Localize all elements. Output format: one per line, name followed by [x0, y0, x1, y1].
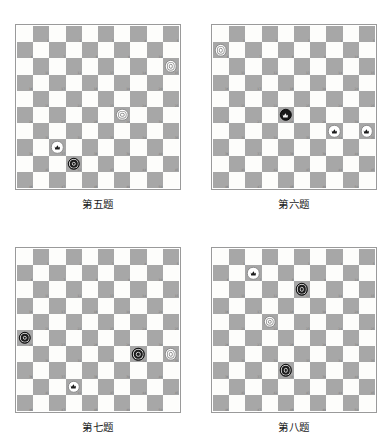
light-square-r8-c4[interactable]	[262, 362, 278, 378]
light-square-r4-c4[interactable]	[66, 298, 82, 314]
light-square-r7-c1[interactable]	[17, 123, 33, 139]
light-square-r2-c6[interactable]	[294, 42, 310, 58]
light-square-r1-c5[interactable]	[278, 26, 294, 42]
square-11[interactable]: 11	[33, 58, 49, 74]
square-50[interactable]: 50	[147, 172, 163, 188]
square-7[interactable]: 7	[49, 42, 65, 58]
light-square-r8-c10[interactable]	[163, 139, 179, 155]
light-square-r7-c9[interactable]	[343, 123, 359, 139]
square-4[interactable]: 4	[326, 26, 342, 42]
square-34[interactable]: 34	[326, 346, 342, 362]
light-square-r1-c5[interactable]	[82, 249, 98, 265]
square-35[interactable]: 35	[163, 346, 179, 362]
light-square-r6-c8[interactable]	[326, 330, 342, 346]
light-square-r5-c7[interactable]	[310, 314, 326, 330]
light-square-r8-c8[interactable]	[326, 362, 342, 378]
light-square-r6-c4[interactable]	[262, 107, 278, 123]
square-33[interactable]: 33	[294, 346, 310, 362]
light-square-r3-c3[interactable]	[49, 58, 65, 74]
square-31[interactable]: 31	[229, 346, 245, 362]
light-square-r3-c7[interactable]	[114, 58, 130, 74]
light-square-r4-c8[interactable]	[326, 75, 342, 91]
light-square-r8-c4[interactable]	[66, 139, 82, 155]
square-13[interactable]: 13	[294, 281, 310, 297]
light-square-r9-c7[interactable]	[310, 156, 326, 172]
square-46[interactable]: 46	[17, 172, 33, 188]
light-square-r7-c7[interactable]	[310, 346, 326, 362]
light-square-r3-c7[interactable]	[310, 58, 326, 74]
square-45[interactable]: 45	[163, 379, 179, 395]
square-48[interactable]: 48	[278, 172, 294, 188]
square-26[interactable]: 26	[213, 107, 229, 123]
light-square-r2-c6[interactable]	[98, 42, 114, 58]
light-square-r1-c7[interactable]	[114, 249, 130, 265]
square-37[interactable]: 37	[245, 362, 261, 378]
square-50[interactable]: 50	[343, 172, 359, 188]
square-50[interactable]: 50	[343, 395, 359, 411]
square-48[interactable]: 48	[82, 395, 98, 411]
square-41[interactable]: 41	[33, 156, 49, 172]
square-32[interactable]: 32	[66, 346, 82, 362]
light-square-r2-c8[interactable]	[326, 42, 342, 58]
square-5[interactable]: 5	[359, 26, 375, 42]
square-1[interactable]: 1	[33, 26, 49, 42]
square-46[interactable]: 46	[213, 172, 229, 188]
light-square-r1-c9[interactable]	[343, 249, 359, 265]
light-square-r1-c1[interactable]	[17, 26, 33, 42]
light-square-r2-c2[interactable]	[229, 265, 245, 281]
light-square-r2-c4[interactable]	[66, 265, 82, 281]
square-13[interactable]: 13	[98, 58, 114, 74]
light-square-r5-c9[interactable]	[147, 91, 163, 107]
light-square-r4-c6[interactable]	[98, 75, 114, 91]
light-square-r10-c8[interactable]	[130, 395, 146, 411]
light-square-r1-c3[interactable]	[245, 26, 261, 42]
light-square-r10-c8[interactable]	[326, 172, 342, 188]
light-square-r3-c5[interactable]	[278, 281, 294, 297]
light-square-r1-c7[interactable]	[114, 26, 130, 42]
light-square-r10-c4[interactable]	[262, 172, 278, 188]
square-37[interactable]: 37	[49, 139, 65, 155]
light-square-r9-c5[interactable]	[278, 379, 294, 395]
light-square-r2-c2[interactable]	[33, 42, 49, 58]
light-square-r9-c7[interactable]	[310, 379, 326, 395]
light-square-r5-c5[interactable]	[82, 314, 98, 330]
light-square-r7-c9[interactable]	[147, 346, 163, 362]
square-49[interactable]: 49	[114, 172, 130, 188]
piece-white-king-square-7[interactable]	[247, 267, 259, 279]
piece-black-man-square-26[interactable]	[19, 332, 31, 344]
square-28[interactable]: 28	[278, 107, 294, 123]
piece-white-man-square-22[interactable]	[263, 316, 275, 328]
light-square-r3-c5[interactable]	[82, 58, 98, 74]
light-square-r6-c10[interactable]	[359, 107, 375, 123]
light-square-r9-c5[interactable]	[82, 156, 98, 172]
square-25[interactable]: 25	[163, 314, 179, 330]
light-square-r10-c8[interactable]	[130, 172, 146, 188]
light-square-r4-c10[interactable]	[359, 75, 375, 91]
square-22[interactable]: 22	[66, 91, 82, 107]
square-10[interactable]: 10	[343, 42, 359, 58]
square-14[interactable]: 14	[326, 281, 342, 297]
square-35[interactable]: 35	[163, 123, 179, 139]
light-square-r6-c2[interactable]	[33, 107, 49, 123]
light-square-r4-c2[interactable]	[33, 298, 49, 314]
square-4[interactable]: 4	[130, 26, 146, 42]
light-square-r6-c6[interactable]	[294, 330, 310, 346]
square-46[interactable]: 46	[213, 395, 229, 411]
light-square-r10-c4[interactable]	[262, 395, 278, 411]
light-square-r4-c8[interactable]	[326, 298, 342, 314]
square-11[interactable]: 11	[229, 58, 245, 74]
light-square-r1-c9[interactable]	[147, 26, 163, 42]
light-square-r9-c3[interactable]	[49, 156, 65, 172]
square-9[interactable]: 9	[114, 42, 130, 58]
light-square-r4-c10[interactable]	[359, 298, 375, 314]
square-18[interactable]: 18	[82, 298, 98, 314]
light-square-r2-c4[interactable]	[262, 265, 278, 281]
light-square-r1-c3[interactable]	[49, 26, 65, 42]
square-19[interactable]: 19	[114, 298, 130, 314]
square-14[interactable]: 14	[130, 58, 146, 74]
square-34[interactable]: 34	[130, 346, 146, 362]
square-36[interactable]: 36	[213, 139, 229, 155]
light-square-r7-c3[interactable]	[245, 346, 261, 362]
square-49[interactable]: 49	[310, 172, 326, 188]
light-square-r6-c2[interactable]	[229, 330, 245, 346]
